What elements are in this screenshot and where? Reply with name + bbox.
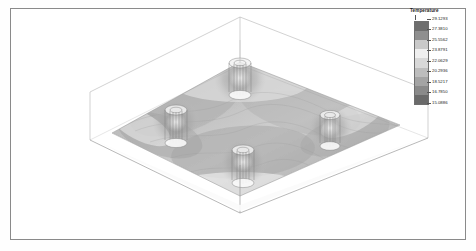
legend-title: Temperature bbox=[410, 8, 439, 13]
legend-tick-value: 27.3810 bbox=[432, 27, 448, 31]
legend-tick-value: 23.8791 bbox=[432, 48, 448, 52]
legend-tick-6: 18.5217 bbox=[427, 78, 448, 87]
legend-tick-dash bbox=[427, 103, 431, 104]
legend-tick-3: 23.8791 bbox=[427, 46, 448, 55]
legend-tick-value: 22.0629 bbox=[432, 59, 448, 63]
legend-title-tick bbox=[415, 15, 416, 20]
legend-tick-dash bbox=[427, 71, 431, 72]
legend-tick-dash bbox=[427, 19, 431, 20]
legend-tick-5: 20.2936 bbox=[427, 67, 448, 76]
legend-tick-dash bbox=[427, 40, 431, 41]
legend-tick-dash bbox=[427, 50, 431, 51]
legend-tick-labels: 29.129327.381025.556223.879122.062920.29… bbox=[427, 19, 469, 105]
legend-tick-0: 29.1293 bbox=[427, 15, 448, 24]
legend-tick-value: 29.1293 bbox=[432, 17, 448, 21]
legend-tick-dash bbox=[427, 82, 431, 83]
legend-tick-value: 25.5562 bbox=[432, 38, 448, 42]
legend-tick-4: 22.0629 bbox=[427, 57, 448, 66]
legend-tick-8: 15.0886 bbox=[427, 99, 448, 108]
legend-tick-value: 16.7850 bbox=[432, 90, 448, 94]
plot-3d-scene bbox=[0, 0, 476, 251]
legend-tick-value: 18.5217 bbox=[432, 80, 448, 84]
legend-tick-1: 27.3810 bbox=[427, 25, 448, 34]
legend-tick-dash bbox=[427, 61, 431, 62]
legend: Temperature 29.129327.381025.556223.8791… bbox=[406, 6, 468, 106]
legend-tick-dash bbox=[427, 92, 431, 93]
legend-tick-2: 25.5562 bbox=[427, 36, 448, 45]
figure-canvas: Temperature 29.129327.381025.556223.8791… bbox=[0, 0, 476, 251]
legend-tick-value: 15.0886 bbox=[432, 101, 448, 105]
legend-tick-7: 16.7850 bbox=[427, 88, 448, 97]
legend-tick-dash bbox=[427, 29, 431, 30]
legend-tick-value: 20.2936 bbox=[432, 69, 448, 73]
